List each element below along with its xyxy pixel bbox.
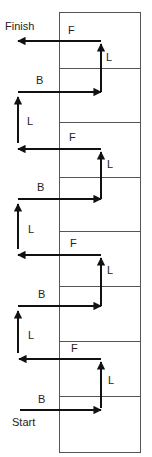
lateral-label-right: L <box>108 375 114 386</box>
finish-label: Finish <box>5 21 34 32</box>
start-label: Start <box>12 417 35 428</box>
forward-label: F <box>69 132 76 143</box>
forward-label: F <box>68 25 75 36</box>
back-label: B <box>38 394 45 405</box>
back-label: B <box>36 75 43 86</box>
lateral-label-right: L <box>106 52 112 63</box>
forward-label: F <box>70 238 77 249</box>
lateral-label-right: L <box>107 159 113 170</box>
back-label: B <box>38 289 45 300</box>
lateral-label-left: L <box>28 330 34 341</box>
back-label: B <box>37 182 44 193</box>
lateral-label-right: L <box>107 265 113 276</box>
lateral-label-left: L <box>28 224 34 235</box>
forward-label: F <box>71 343 78 354</box>
lateral-label-left: L <box>27 116 33 127</box>
drill-path-diagram <box>0 0 152 457</box>
